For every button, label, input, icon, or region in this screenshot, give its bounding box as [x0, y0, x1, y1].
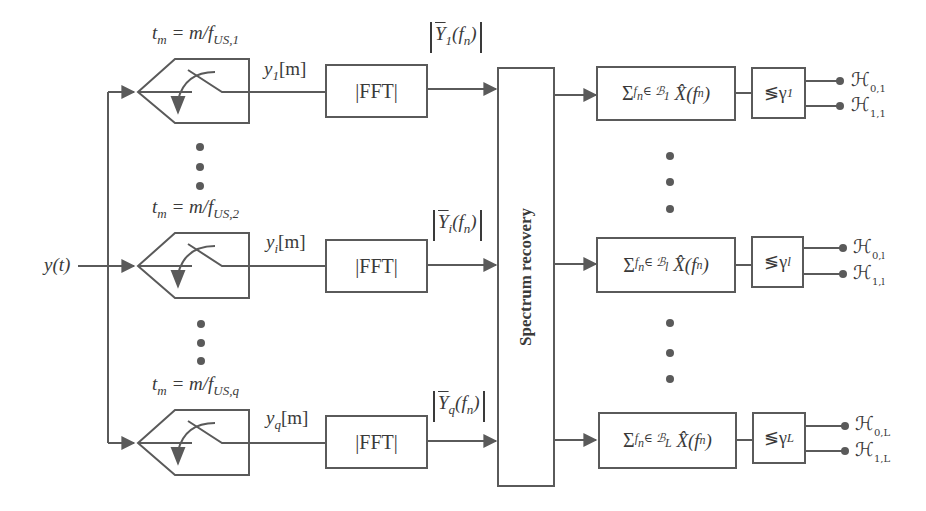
- fft-label-1: |FFT|: [326, 65, 427, 117]
- hypothesis-h1-L: ℋ1,L: [855, 438, 890, 464]
- sampler-2: [138, 233, 249, 298]
- input-signal-label: y(t): [44, 254, 70, 276]
- fft-label-q: |FFT|: [326, 416, 427, 468]
- sampled-output-1-label: y1[m]: [264, 58, 306, 84]
- sampler-1: [138, 59, 249, 123]
- sampler-q-rate-label: tm = m/fUS,q: [152, 373, 239, 399]
- threshold-label-l: ≶γl: [752, 237, 803, 287]
- threshold-label-L: ≶γL: [753, 413, 805, 463]
- sum-label-l: Σfn∈ ℬl X̂(fn): [597, 238, 735, 292]
- sampler-2-rate-label: tm = m/fUS,2: [152, 196, 239, 222]
- output-terminals: [836, 77, 849, 455]
- hypothesis-h1-1: ℋ1,1: [851, 93, 886, 119]
- sampled-output-q-label: yq[m]: [266, 407, 308, 433]
- sampled-output-i-label: yi[m]: [266, 231, 306, 257]
- sampler-q: [138, 410, 249, 475]
- sampler-1-rate-label: tm = m/fUS,1: [152, 22, 239, 48]
- fft-label-2: |FFT|: [326, 240, 427, 292]
- fft-output-1-label: Y1(fn): [430, 22, 482, 53]
- hypothesis-h1-l: ℋ1,l: [853, 261, 885, 287]
- spectrum-recovery-label-wrap: Spectrum recovery: [498, 68, 554, 486]
- hypothesis-h0-1: ℋ0,1: [851, 68, 886, 94]
- hypothesis-h0-l: ℋ0,l: [853, 235, 885, 261]
- fft-output-q-label: Yq(fn): [433, 391, 485, 422]
- sum-label-1: Σfn∈ ℬ1 X̂(fn): [597, 67, 735, 120]
- threshold-label-1: ≶γ1: [752, 68, 805, 118]
- spectrum-recovery-label: Spectrum recovery: [516, 208, 536, 346]
- sum-label-L: Σfn∈ ℬL X̂(fn): [599, 413, 736, 468]
- hypothesis-h0-L: ℋ0,L: [855, 412, 890, 438]
- fft-output-i-label: Yi(fn): [433, 210, 482, 241]
